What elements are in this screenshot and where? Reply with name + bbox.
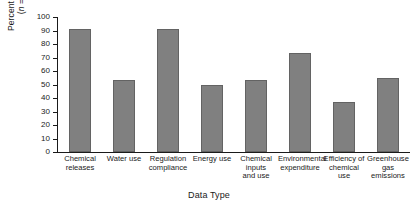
bar-column (157, 17, 179, 152)
bar (201, 85, 223, 153)
y-axis-tick-label: 70 (41, 53, 50, 62)
y-axis-tick: 90 (53, 31, 57, 32)
bar (157, 29, 179, 152)
y-axis-tick: 30 (53, 112, 57, 113)
bar-column (201, 17, 223, 152)
bar (289, 53, 311, 152)
y-axis-title-n-italic: n (16, 6, 26, 11)
x-axis-tick-label: Regulationcompliance (146, 155, 190, 172)
x-axis-tick-labels: ChemicalreleasesWater useRegulationcompl… (58, 155, 410, 195)
y-axis-tick-label: 0 (46, 147, 50, 156)
y-axis-title-count: = 33) (16, 0, 26, 6)
x-axis-tick-label-line: compliance (146, 164, 190, 173)
y-axis-tick-label: 80 (41, 39, 50, 48)
bar-column (377, 17, 399, 152)
y-axis-tick-label: 30 (41, 107, 50, 116)
y-axis-tick: 80 (53, 44, 57, 45)
y-axis-title-line2: (n = 33) (17, 0, 27, 14)
x-axis-tick-label: Water use (102, 155, 146, 164)
x-axis-tick-label: Environmentalexpenditure (278, 155, 322, 172)
bar (245, 80, 267, 152)
y-axis-tick: 40 (53, 98, 57, 99)
y-axis-tick-label: 20 (41, 120, 50, 129)
bar (377, 78, 399, 152)
bar-column (69, 17, 91, 152)
y-axis-tick: 70 (53, 58, 57, 59)
y-axis-tick-label: 100 (37, 12, 50, 21)
x-axis-tick-label-line: emissions (366, 172, 410, 181)
x-axis-tick-label-line: and use (234, 172, 278, 181)
y-axis-tick-label: 50 (41, 80, 50, 89)
y-axis-tick: 100 (53, 17, 57, 18)
bar-column (289, 17, 311, 152)
x-axis-tick-label-line: Water use (102, 155, 146, 164)
bars-layer (58, 17, 410, 152)
bar-column (245, 17, 267, 152)
x-axis-tick-label-line: releases (58, 164, 102, 173)
y-axis-tick: 10 (53, 139, 57, 140)
y-axis-title-paren-open: ( (16, 11, 26, 14)
y-axis-tick: 50 (53, 85, 57, 86)
x-axis-tick-label-line: expenditure (278, 164, 322, 173)
bar (113, 80, 135, 152)
x-axis-tick-label: Chemicalreleases (58, 155, 102, 172)
x-axis-tick-label-line: use (322, 172, 366, 181)
y-axis-tick: 0 (53, 152, 57, 153)
x-axis-tick-label: Chemicalinputsand use (234, 155, 278, 181)
y-axis-tick-label: 60 (41, 66, 50, 75)
x-axis-title: Data Type (0, 190, 418, 200)
y-axis-tick: 20 (53, 125, 57, 126)
y-axis-title: Percent of Firms (n = 33) (4, 0, 30, 54)
bar (333, 102, 355, 152)
bar (69, 29, 91, 152)
y-axis-tick-label: 10 (41, 134, 50, 143)
x-axis-tick-label-line: Energy use (190, 155, 234, 164)
plot-area: 0102030405060708090100 (57, 17, 410, 152)
y-axis-tick-label: 90 (41, 26, 50, 35)
bar-chart: Percent of Firms (n = 33) 01020304050607… (0, 0, 418, 208)
x-axis-line (57, 152, 410, 153)
bar-column (333, 17, 355, 152)
x-axis-tick-label: Energy use (190, 155, 234, 164)
y-axis-tick-label: 40 (41, 93, 50, 102)
x-axis-tick-label: Greenhousegasemissions (366, 155, 410, 181)
bar-column (113, 17, 135, 152)
y-axis-tick: 60 (53, 71, 57, 72)
x-axis-tick-label: Efficiency ofchemicaluse (322, 155, 366, 181)
